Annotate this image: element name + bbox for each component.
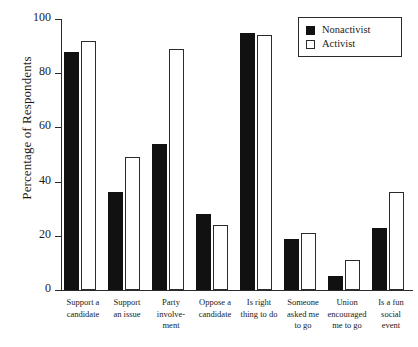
bar-nonactivist [284, 239, 299, 290]
bar-group [369, 19, 413, 290]
bar-group [61, 19, 105, 290]
bar-group [325, 19, 369, 290]
bar-group [193, 19, 237, 290]
x-axis-label-line: event [364, 320, 418, 332]
x-axis-line [61, 290, 413, 291]
bar-activist [81, 41, 96, 290]
bar-group [237, 19, 281, 290]
legend-item-nonactivist: Nonactivist [306, 23, 395, 37]
bar-group [105, 19, 149, 290]
legend-label-nonactivist: Nonactivist [322, 25, 370, 36]
bar-group [149, 19, 193, 290]
legend: Nonactivist Activist [298, 17, 402, 57]
filled-square-icon [306, 26, 315, 35]
y-axis-tick-label: 0 [45, 282, 51, 294]
bar-nonactivist [240, 33, 255, 290]
y-axis-tick-label: 60 [39, 119, 51, 131]
legend-item-activist: Activist [306, 37, 395, 51]
x-axis-label-line: ment [144, 320, 198, 332]
plot-area: 020406080100 [61, 19, 413, 290]
bar-nonactivist [328, 276, 343, 290]
bar-nonactivist [152, 144, 167, 290]
y-axis-tick-label: 80 [39, 65, 51, 77]
bar-activist [169, 49, 184, 290]
bar-nonactivist [108, 192, 123, 290]
bar-activist [345, 260, 360, 290]
bar-nonactivist [196, 214, 211, 290]
bar-activist [389, 192, 404, 290]
x-axis-labels: Support acandidateSupportan issuePartyin… [61, 297, 413, 343]
bar-activist [257, 35, 272, 290]
bars-layer [61, 19, 413, 290]
bar-activist [301, 233, 316, 290]
open-square-icon [306, 40, 315, 49]
x-axis-label-line: social [364, 309, 418, 321]
y-axis-tick-label: 40 [39, 174, 51, 186]
y-axis-tick-label: 20 [39, 228, 51, 240]
bar-nonactivist [64, 52, 79, 290]
bar-activist [125, 157, 140, 290]
y-axis-title: Percentage of Respondents [19, 28, 35, 228]
y-axis-tick: 0 [55, 290, 61, 291]
y-axis-tick-label: 100 [33, 11, 51, 23]
bar-nonactivist [372, 228, 387, 290]
bar-activist [213, 225, 228, 290]
bar-group [281, 19, 325, 290]
caption-stub [44, 341, 396, 347]
bar-chart-figure: Percentage of Respondents 020406080100 S… [0, 0, 418, 347]
x-axis-label: Is a funsocialevent [364, 297, 418, 332]
legend-label-activist: Activist [322, 39, 355, 50]
x-axis-label-line: Is a fun [364, 297, 418, 309]
